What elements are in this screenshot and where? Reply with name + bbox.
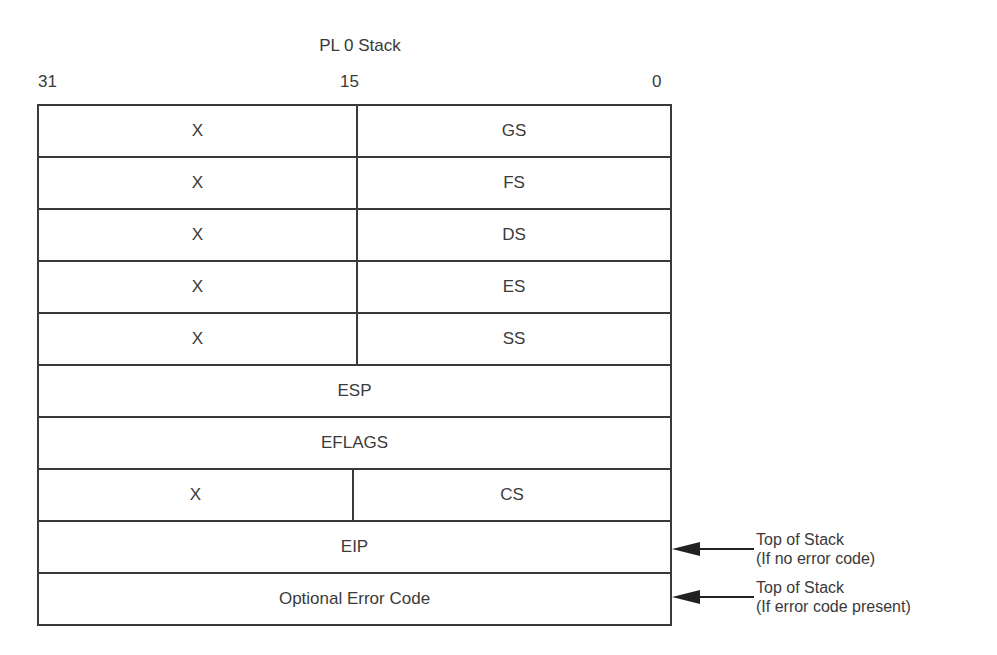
stack-row-cs: X CS [39, 470, 670, 522]
top-of-stack-note-error: Top of Stack (If error code present) [756, 578, 911, 616]
reserved-cell: X [39, 262, 358, 312]
ds-cell: DS [358, 210, 670, 260]
arrow-left-icon [672, 542, 754, 556]
stack-title: PL 0 Stack [0, 36, 720, 56]
eflags-cell: EFLAGS [39, 418, 670, 468]
stack-row-error-code: Optional Error Code [39, 574, 670, 624]
bit-label-0: 0 [652, 72, 661, 92]
top-of-stack-note-no-error: Top of Stack (If no error code) [756, 530, 875, 568]
note-line: Top of Stack [756, 530, 875, 549]
reserved-cell: X [39, 210, 358, 260]
stack-frame: X GS X FS X DS X ES X SS ESP EFLAGS X CS… [37, 104, 672, 626]
note-line: Top of Stack [756, 578, 911, 597]
arrow-left-icon [672, 590, 754, 604]
error-code-cell: Optional Error Code [39, 574, 670, 624]
bit-label-15: 15 [340, 72, 359, 92]
stack-row-esp: ESP [39, 366, 670, 418]
reserved-cell: X [39, 158, 358, 208]
cs-cell: CS [354, 470, 670, 520]
stack-row-es: X ES [39, 262, 670, 314]
stack-row-ds: X DS [39, 210, 670, 262]
esp-cell: ESP [39, 366, 670, 416]
stack-row-eip: EIP [39, 522, 670, 574]
fs-cell: FS [358, 158, 670, 208]
stack-row-gs: X GS [39, 106, 670, 158]
stack-row-ss: X SS [39, 314, 670, 366]
es-cell: ES [358, 262, 670, 312]
stack-row-fs: X FS [39, 158, 670, 210]
ss-cell: SS [358, 314, 670, 364]
gs-cell: GS [358, 106, 670, 156]
reserved-cell: X [39, 106, 358, 156]
stack-row-eflags: EFLAGS [39, 418, 670, 470]
reserved-cell: X [39, 470, 354, 520]
bit-label-31: 31 [38, 72, 57, 92]
note-line: (If error code present) [756, 597, 911, 616]
eip-cell: EIP [39, 522, 670, 572]
reserved-cell: X [39, 314, 358, 364]
note-line: (If no error code) [756, 549, 875, 568]
